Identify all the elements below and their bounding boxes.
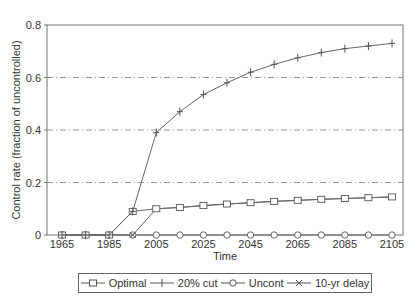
- x-tick-label: 1965: [50, 238, 74, 250]
- x-tick-label: 2045: [238, 238, 262, 250]
- legend-label: Uncont: [249, 277, 284, 289]
- legend-item-10yr-delay: 10-yr delay: [287, 277, 369, 289]
- legend-label: 20% cut: [178, 277, 218, 289]
- legend-item-20pct-cut: 20% cut: [150, 277, 218, 289]
- x-tick-label: 2105: [380, 238, 404, 250]
- x-axis-label: Time: [200, 250, 250, 262]
- x-tick-label: 2025: [191, 238, 215, 250]
- x-tick-label: 2005: [144, 238, 168, 250]
- gridlines: [47, 78, 403, 183]
- y-tick-label: 0.6: [26, 72, 41, 84]
- y-axis-ticks: 00.20.40.60.8: [26, 19, 47, 241]
- x-marker-icon: [287, 278, 311, 288]
- y-tick-label: 0: [35, 229, 41, 241]
- legend-label: Optimal: [109, 277, 147, 289]
- legend-label: 10-yr delay: [315, 277, 369, 289]
- circle-marker-icon: [221, 278, 245, 288]
- y-axis-label: Control rate (fraction of uncontrolled): [10, 40, 22, 219]
- x-tick-label: 1985: [97, 238, 121, 250]
- legend-item-optimal: Optimal: [81, 277, 147, 289]
- x-axis-ticks: 19651985200520252045206520852105: [50, 238, 404, 250]
- square-marker-icon: [81, 278, 105, 288]
- y-tick-label: 0.4: [26, 124, 41, 136]
- plus-marker-icon: [150, 278, 174, 288]
- x-tick-label: 2065: [285, 238, 309, 250]
- legend-item-uncont: Uncont: [221, 277, 284, 289]
- x-tick-label: 2085: [333, 238, 357, 250]
- y-tick-label: 0.8: [26, 19, 41, 31]
- legend: Optimal 20% cut Uncont 10-yr delay: [78, 273, 372, 293]
- series-20-cut: [59, 39, 395, 239]
- y-tick-label: 0.2: [26, 177, 41, 189]
- series-layer: [59, 39, 396, 239]
